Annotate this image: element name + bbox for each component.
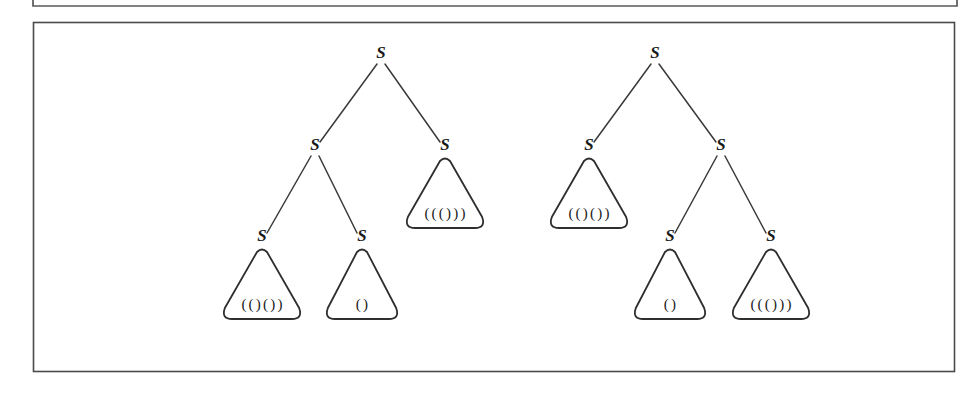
tree-node-label: S (310, 135, 319, 154)
parse-tree-figure: SSS(()())S()S((()))SS(()())SS()S((())) (0, 0, 979, 397)
trees-layer: SSS(()())S()S((()))SS(()())SS()S((())) (224, 43, 809, 319)
figure-container: SSS(()())S()S((()))SS(()())SS()S((())) (0, 0, 979, 397)
leaf-string: ((())) (424, 205, 467, 222)
parse-tree-left: SSS(()())S()S((())) (224, 43, 483, 319)
tree-node-label: S (716, 135, 725, 154)
leaf-string: ((())) (750, 296, 793, 313)
tree-edge (385, 64, 440, 142)
tree-edge (659, 64, 716, 142)
tree-node-label: S (665, 226, 674, 245)
leaf-string: () (664, 296, 678, 313)
leaf-string: (()()) (241, 296, 284, 313)
tree-node-label: S (650, 43, 659, 62)
tree-node-label: S (257, 226, 266, 245)
main-frame (34, 23, 955, 372)
tree-edge (675, 156, 717, 233)
tree-edge (594, 64, 651, 142)
tree-node-label: S (766, 226, 775, 245)
tree-edge (267, 156, 311, 233)
tree-edge (320, 64, 377, 142)
parse-tree-right: SS(()())SS()S((())) (551, 43, 809, 319)
tree-node-label: S (440, 135, 449, 154)
tree-node-label: S (584, 135, 593, 154)
tree-edge (319, 156, 357, 233)
tree-edge (725, 156, 766, 233)
leaf-string: () (356, 296, 370, 313)
upper-frame-partial (33, 0, 957, 6)
leaf-string: (()()) (568, 205, 611, 222)
tree-node-label: S (376, 43, 385, 62)
tree-node-label: S (357, 226, 366, 245)
